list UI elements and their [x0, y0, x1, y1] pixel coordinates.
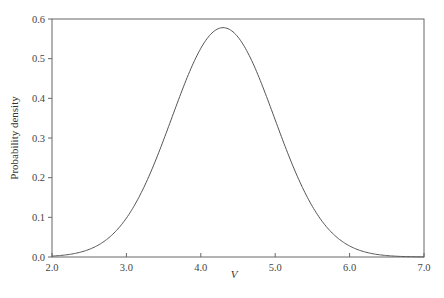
y-tick-label: 0.2: [32, 172, 45, 183]
y-axis-label: Probability density: [8, 96, 20, 180]
y-tick-label: 0.5: [32, 53, 45, 64]
x-tick-label: 5.0: [269, 262, 282, 273]
y-tick-label: 0.6: [32, 14, 45, 25]
plot-frame: [52, 19, 424, 257]
x-tick-label: 4.0: [194, 262, 207, 273]
x-tick-label: 2.0: [45, 262, 58, 273]
density-curve: [52, 28, 424, 257]
y-tick-label: 0.1: [32, 212, 45, 223]
y-tick-label: 0.3: [32, 133, 45, 144]
x-axis-ticks: 2.03.04.05.06.07.0: [45, 253, 430, 273]
y-tick-label: 0.4: [32, 93, 46, 104]
x-axis-label: V: [231, 268, 239, 280]
y-axis-ticks: 0.00.10.20.30.40.50.6: [32, 14, 52, 263]
chart-canvas: 0.00.10.20.30.40.50.6 2.03.04.05.06.07.0…: [0, 0, 444, 298]
y-tick-label: 0.0: [32, 252, 45, 263]
x-tick-label: 6.0: [343, 262, 356, 273]
x-tick-label: 7.0: [417, 262, 430, 273]
x-tick-label: 3.0: [120, 262, 133, 273]
